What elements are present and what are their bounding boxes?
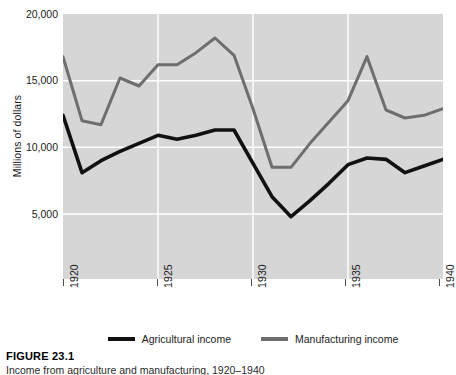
y-tick-label-20000: 20,000 <box>12 9 58 20</box>
legend-swatch-agricultural <box>108 337 135 341</box>
legend-item-agricultural: Agricultural income <box>108 333 231 345</box>
chart-svg <box>63 14 443 279</box>
legend-swatch-manufacturing <box>261 337 288 340</box>
x-axis-ticks: 1920 1925 1930 1935 1940 <box>0 279 450 329</box>
x-tick-mark-1930 <box>251 279 252 286</box>
x-tick-label-1920: 1920 <box>68 264 80 288</box>
legend-item-manufacturing: Manufacturing income <box>261 333 398 345</box>
x-tick-label-1940: 1940 <box>444 264 456 288</box>
x-tick-mark-1925 <box>157 279 158 286</box>
x-tick-label-1935: 1935 <box>350 264 362 288</box>
y-axis-ticks: 20,000 15,000 10,000 5,000 <box>12 0 58 290</box>
y-tick-label-5000: 5,000 <box>12 209 58 220</box>
figure-caption-title: FIGURE 23.1 <box>6 350 446 363</box>
x-tick-mark-1940 <box>439 279 440 286</box>
legend-label-agricultural: Agricultural income <box>142 333 231 345</box>
legend-label-manufacturing: Manufacturing income <box>295 333 398 345</box>
plot-area <box>63 14 443 279</box>
x-tick-label-1925: 1925 <box>162 264 174 288</box>
y-tick-label-10000: 10,000 <box>12 142 58 153</box>
x-tick-mark-1920 <box>63 279 64 286</box>
x-tick-mark-1935 <box>345 279 346 286</box>
chart-legend: Agricultural income Manufacturing income <box>63 330 443 348</box>
x-tick-label-1930: 1930 <box>256 264 268 288</box>
figure-caption: FIGURE 23.1 Income from agriculture and … <box>6 350 446 375</box>
figure-caption-subtitle: Income from agriculture and manufacturin… <box>6 364 446 375</box>
y-tick-label-15000: 15,000 <box>12 75 58 86</box>
